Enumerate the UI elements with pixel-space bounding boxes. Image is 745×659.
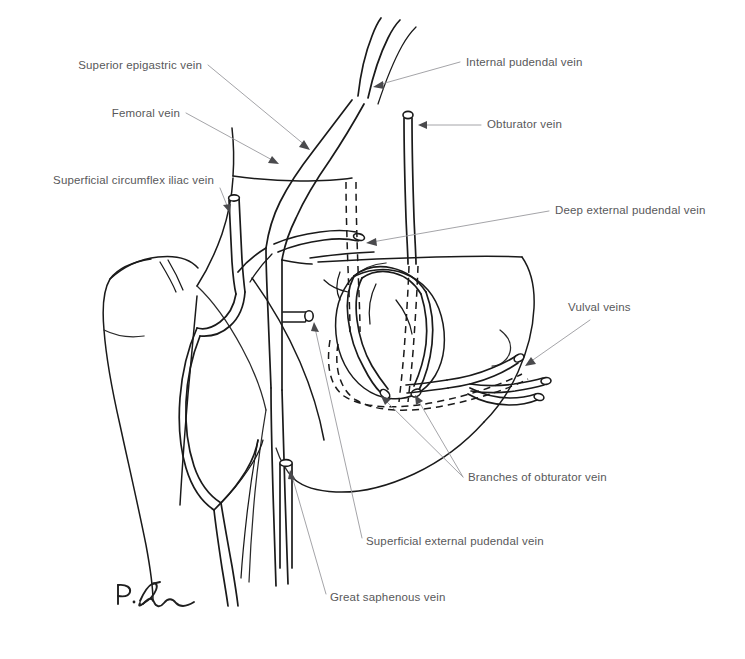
label-deep-external-pudendal-vein: Deep external pudendal vein bbox=[555, 204, 705, 216]
circumflex-iliac-vein-cut-end bbox=[228, 195, 239, 202]
obturator-vein-ligated-tip bbox=[403, 111, 413, 118]
label-superior-epigastric-vein: Superior epigastric vein bbox=[78, 59, 202, 71]
label-superficial-external-pudendal-vein: Superficial external pudendal vein bbox=[366, 535, 544, 547]
label-vulval-veins: Vulval veins bbox=[568, 301, 631, 313]
diagram-canvas: Superior epigastric vein Femoral vein Su… bbox=[0, 0, 745, 659]
label-great-saphenous-vein: Great saphenous vein bbox=[330, 591, 446, 603]
diagram-background bbox=[0, 0, 745, 659]
great-saphenous-vein-cut-end bbox=[280, 460, 292, 467]
vulval-vein-branch-2-cut-end bbox=[541, 377, 552, 385]
label-branches-of-obturator-vein: Branches of obturator vein bbox=[468, 471, 607, 483]
signature-period bbox=[133, 601, 136, 604]
label-internal-pudendal-vein: Internal pudendal vein bbox=[466, 56, 582, 68]
anatomical-diagram: Superior epigastric vein Femoral vein Su… bbox=[0, 0, 745, 659]
superficial-external-pudendal-vein-cut-end bbox=[305, 311, 313, 321]
label-superficial-circumflex-iliac-vein: Superficial circumflex iliac vein bbox=[53, 174, 214, 186]
label-femoral-vein: Femoral vein bbox=[112, 107, 180, 119]
label-obturator-vein: Obturator vein bbox=[487, 118, 562, 130]
